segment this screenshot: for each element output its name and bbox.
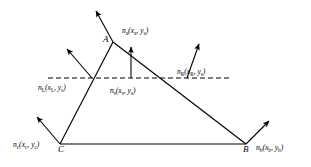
vertex-label-A-text: A [103,34,109,44]
label-normal-c: nc(xc, yc) [13,141,39,149]
label-normal-s: ns(xs, ys) [110,87,136,95]
vertex-label-B: B [243,145,249,154]
vertex-label-A: A [103,35,109,44]
normal-left-arrow [67,49,92,78]
edge-AC [60,42,113,144]
label-normal-right: nR(xR, ys) [177,68,205,76]
label-normal-b: nb(xb, yb) [256,144,283,152]
geometry-figure: A C B na(xa, ya) nL(xL, ys) ns(xs, ys) n… [0,0,311,167]
normal-c-arrow [37,117,60,144]
normal-b-arrow [246,121,269,144]
vertex-label-C-text: C [58,144,64,154]
vertex-label-C: C [58,145,64,154]
label-normal-a: na(xa, ya) [122,27,148,35]
label-normal-left: nL(xL, ys) [38,84,66,92]
vertex-label-B-text: B [243,144,249,154]
